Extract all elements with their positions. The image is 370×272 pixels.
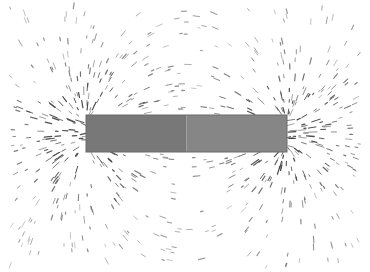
magnet-left-half <box>86 115 187 152</box>
iron-filings-magnet-photo <box>0 0 370 272</box>
bar-magnet <box>0 0 370 272</box>
magnet-right-half <box>187 115 288 152</box>
